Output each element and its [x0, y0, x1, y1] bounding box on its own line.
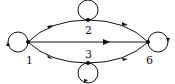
edge-1-2 [28, 20, 88, 42]
edge-3-6 [88, 42, 148, 63]
self-loop-1 [8, 32, 28, 52]
arrow-loop-1-icon [6, 42, 10, 46]
self-loop-6 [148, 32, 168, 52]
arrow-3-6-icon [122, 58, 128, 61]
node-label-2: 2 [85, 24, 92, 37]
graph-diagram: 1 2 3 6 [0, 0, 175, 84]
node-3 [86, 61, 90, 65]
node-6 [146, 40, 150, 44]
node-label-6: 6 [146, 54, 153, 67]
self-loop-2 [78, 0, 98, 20]
edge-1-3 [28, 42, 88, 63]
arrow-loop-6-icon [166, 38, 170, 42]
node-label-3: 3 [85, 48, 92, 61]
node-label-1: 1 [26, 54, 33, 67]
arrow-2-6-icon [122, 22, 128, 26]
node-2 [86, 18, 90, 22]
edge-2-6 [88, 20, 148, 42]
arrow-1-6-icon [103, 39, 110, 45]
node-1 [26, 40, 30, 44]
